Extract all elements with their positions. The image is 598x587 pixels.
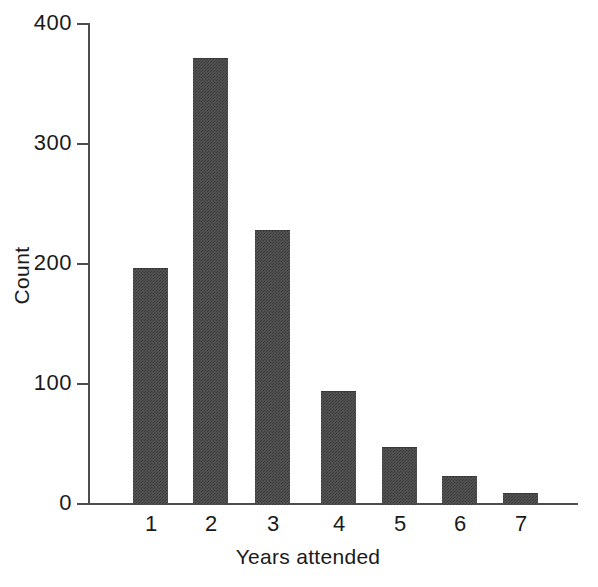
x-tick-label-4: 4	[319, 512, 359, 536]
bar-6	[442, 476, 477, 505]
x-axis-title: Years attended	[188, 545, 428, 568]
y-tick-label-400: 400	[6, 12, 72, 34]
bar-3	[255, 230, 290, 505]
y-tick-label-wrap-400: 400	[0, 12, 72, 34]
y-tick-200	[77, 263, 88, 265]
x-tick-label-2: 2	[191, 512, 231, 536]
bar-4	[321, 391, 356, 505]
y-tick-label-100: 100	[6, 372, 72, 394]
x-tick-label-3: 3	[253, 512, 293, 536]
y-tick-400	[77, 23, 88, 25]
y-axis-title: Count	[11, 221, 32, 331]
bar-chart: 400 300 200 100 0 Count 1 2 3 4 5 6 7 Ye…	[0, 0, 598, 587]
y-tick-100	[77, 383, 88, 385]
bar-5	[382, 447, 417, 505]
y-tick-label-wrap-0: 0	[0, 492, 72, 514]
bar-1	[133, 268, 168, 505]
x-tick-label-5: 5	[380, 512, 420, 536]
y-tick-300	[77, 143, 88, 145]
y-tick-label-300: 300	[6, 132, 72, 154]
y-tick-0	[77, 503, 88, 505]
y-tick-label-0: 0	[6, 492, 72, 514]
bar-2	[193, 58, 228, 505]
y-axis-line	[88, 23, 90, 505]
x-tick-label-7: 7	[501, 512, 541, 536]
y-tick-label-wrap-100: 100	[0, 372, 72, 394]
x-tick-label-1: 1	[131, 512, 171, 536]
bar-7	[503, 493, 538, 505]
y-tick-label-wrap-300: 300	[0, 132, 72, 154]
x-tick-label-6: 6	[440, 512, 480, 536]
